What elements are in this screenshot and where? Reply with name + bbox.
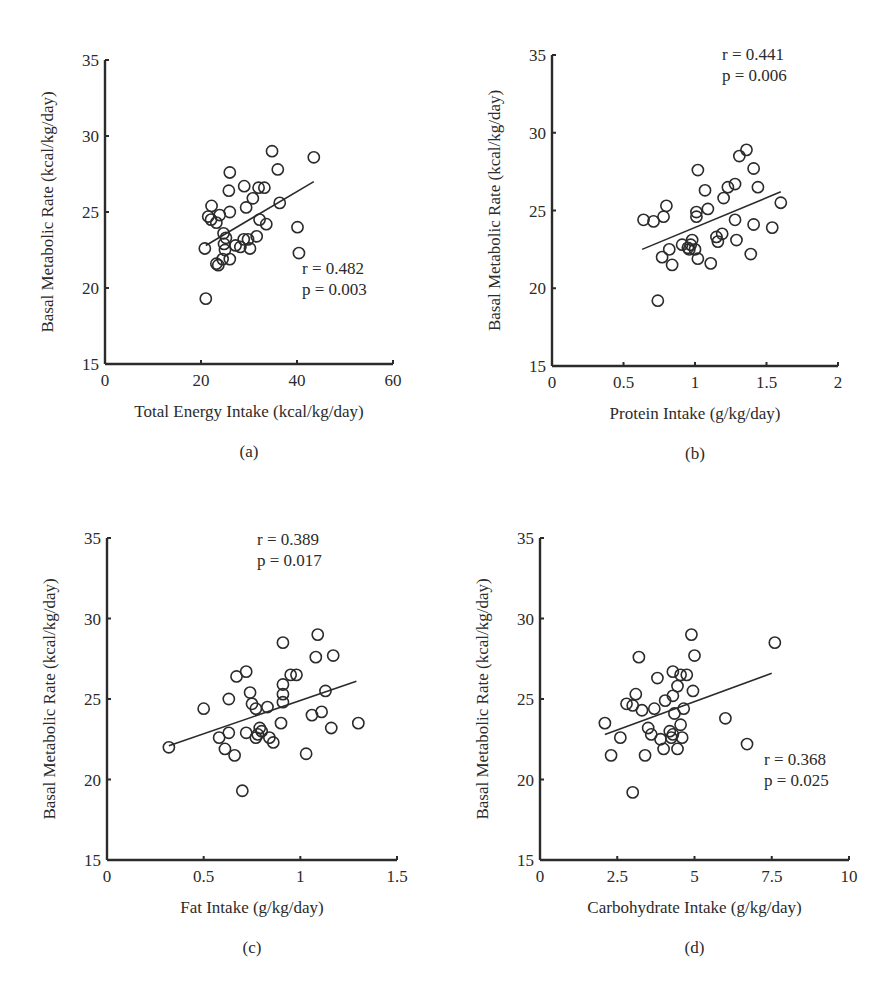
data-point xyxy=(308,152,319,163)
data-points xyxy=(599,629,780,798)
y-tick-label: 35 xyxy=(82,51,99,70)
x-axis-label: Total Energy Intake (kcal/kg/day) xyxy=(134,402,363,421)
data-point xyxy=(206,200,217,211)
data-point xyxy=(353,718,364,729)
y-tick-label: 15 xyxy=(529,357,546,376)
stats-p-value: p = 0.006 xyxy=(722,66,787,85)
x-tick-label: 0 xyxy=(101,371,110,390)
x-tick-label: 1 xyxy=(296,867,305,886)
data-point xyxy=(310,652,321,663)
x-tick-label: 1.5 xyxy=(386,867,407,886)
data-points xyxy=(638,144,786,306)
data-point xyxy=(633,652,644,663)
x-tick-label: 60 xyxy=(385,371,402,390)
y-tick-label: 25 xyxy=(529,202,546,221)
chart-panel-b: 152025303500.511.52Protein Intake (g/kg/… xyxy=(447,0,894,480)
x-tick-label: 0.5 xyxy=(193,867,214,886)
data-point xyxy=(658,743,669,754)
axes: 15202530350204060 xyxy=(82,51,402,390)
y-tick-label: 15 xyxy=(517,851,534,870)
y-tick-label: 35 xyxy=(529,46,546,65)
data-point xyxy=(301,748,312,759)
chart-panel-a: 15202530350204060Total Energy Intake (kc… xyxy=(0,0,447,480)
scatter-plot-d: 152025303502.557.510Carbohydrate Intake … xyxy=(447,480,894,1001)
data-point xyxy=(734,150,745,161)
data-point xyxy=(241,202,252,213)
data-point xyxy=(658,211,669,222)
y-tick-label: 30 xyxy=(529,124,546,143)
scatter-plot-c: 152025303500.511.5Fat Intake (g/kg/day)B… xyxy=(0,480,447,1001)
data-point xyxy=(672,743,683,754)
data-point xyxy=(672,681,683,692)
panel-caption: (c) xyxy=(243,938,262,957)
data-point xyxy=(224,254,235,265)
y-tick-label: 25 xyxy=(82,203,99,222)
x-tick-label: 40 xyxy=(289,371,306,390)
x-tick-label: 1 xyxy=(691,373,700,392)
data-point xyxy=(163,742,174,753)
stats-p-value: p = 0.017 xyxy=(257,551,322,570)
data-point xyxy=(652,672,663,683)
data-point xyxy=(599,718,610,729)
data-point xyxy=(223,693,234,704)
data-point xyxy=(200,293,211,304)
data-point xyxy=(266,146,277,157)
scatter-plot-b: 152025303500.511.52Protein Intake (g/kg/… xyxy=(447,0,894,480)
data-point xyxy=(605,750,616,761)
y-tick-label: 35 xyxy=(84,529,101,548)
data-point xyxy=(745,248,756,259)
data-point xyxy=(328,650,339,661)
data-point xyxy=(667,259,678,270)
x-tick-label: 5 xyxy=(690,867,699,886)
data-point xyxy=(769,637,780,648)
data-point xyxy=(229,750,240,761)
data-point xyxy=(223,185,234,196)
data-point xyxy=(615,732,626,743)
data-point xyxy=(748,163,759,174)
data-point xyxy=(198,703,209,714)
y-tick-label: 25 xyxy=(84,690,101,709)
data-point xyxy=(262,701,273,712)
stats-r-value: r = 0.441 xyxy=(722,45,784,64)
data-point xyxy=(664,244,675,255)
data-point xyxy=(199,243,210,254)
data-point xyxy=(718,192,729,203)
x-tick-label: 10 xyxy=(841,867,858,886)
data-point xyxy=(312,629,323,640)
data-point xyxy=(752,182,763,193)
chart-panel-c: 152025303500.511.5Fat Intake (g/kg/day)B… xyxy=(0,480,447,960)
data-point xyxy=(224,167,235,178)
x-tick-label: 2.5 xyxy=(607,867,628,886)
y-tick-label: 15 xyxy=(82,355,99,374)
data-point xyxy=(316,706,327,717)
data-point xyxy=(687,685,698,696)
data-point xyxy=(689,650,700,661)
y-tick-label: 20 xyxy=(82,279,99,298)
x-tick-label: 20 xyxy=(193,371,210,390)
data-point xyxy=(643,722,654,733)
scatter-plot-a: 15202530350204060Total Energy Intake (kc… xyxy=(0,0,447,480)
axes: 152025303500.511.5 xyxy=(84,529,408,886)
data-point xyxy=(741,738,752,749)
data-point xyxy=(729,178,740,189)
data-point xyxy=(239,181,250,192)
data-point xyxy=(702,203,713,214)
y-tick-label: 20 xyxy=(517,771,534,790)
data-point xyxy=(293,247,304,258)
stats-r-value: r = 0.368 xyxy=(764,750,826,769)
x-tick-label: 0 xyxy=(548,373,557,392)
x-tick-label: 1.5 xyxy=(756,373,777,392)
data-point xyxy=(244,687,255,698)
data-point xyxy=(775,197,786,208)
data-point xyxy=(692,164,703,175)
data-point xyxy=(292,222,303,233)
data-point xyxy=(241,666,252,677)
chart-panel-d: 152025303502.557.510Carbohydrate Intake … xyxy=(447,480,894,960)
y-axis-label: Basal Metabolic Rate (kcal/kg/day) xyxy=(38,91,57,332)
data-point xyxy=(699,185,710,196)
data-point xyxy=(705,258,716,269)
x-tick-label: 2 xyxy=(834,373,843,392)
y-axis-label: Basal Metabolic Rate (kcal/kg/day) xyxy=(473,578,492,819)
data-point xyxy=(661,200,672,211)
y-tick-label: 35 xyxy=(517,529,534,548)
